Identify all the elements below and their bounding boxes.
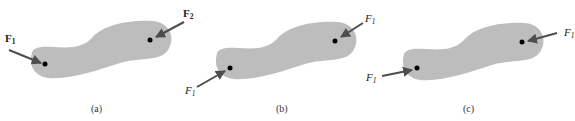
caption-b: (b) (276, 103, 288, 115)
application-point-right (520, 40, 525, 45)
panel-a: F1 F2 (a) (5, 7, 194, 115)
force-label-f1-right: F1 (364, 12, 375, 26)
force-label-f1-left: F1 (365, 71, 376, 85)
application-point-left (415, 66, 420, 71)
force-label-f1-left: F1 (184, 84, 195, 98)
application-point-left (228, 66, 233, 71)
force-label-f2: F2 (183, 7, 194, 21)
panel-c: F1 F1 (c) (365, 23, 574, 115)
force-diagram: F1 F2 (a) F1 F1 (b) F1 F1 (c) (0, 0, 575, 121)
force-label-f1: F1 (5, 32, 16, 46)
rigid-body (403, 23, 544, 80)
application-point-right (333, 39, 338, 44)
force-label-f1-right: F1 (563, 26, 574, 40)
force-arrow-f1-left (197, 71, 225, 87)
panel-b: F1 F1 (b) (184, 12, 375, 115)
application-point-left (43, 62, 48, 67)
caption-a: (a) (91, 103, 102, 115)
caption-c: (c) (463, 103, 474, 115)
rigid-body (31, 21, 172, 78)
application-point-right (148, 38, 153, 43)
rigid-body (216, 22, 357, 79)
